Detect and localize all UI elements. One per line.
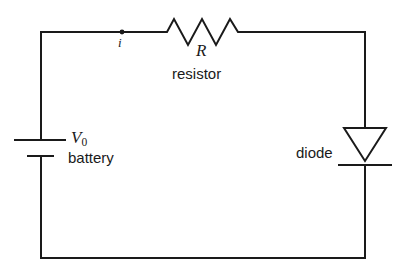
current-label: i [118, 36, 122, 49]
resistor-caption-label: resistor [172, 66, 221, 81]
diode-caption-label: diode [296, 145, 333, 160]
battery-caption-label: battery [68, 150, 114, 165]
battery-voltage-symbol-subscript: 0 [81, 136, 87, 149]
circuit-diagram-figure: i R resistor V0 battery diode [0, 0, 404, 274]
label-layer: i R resistor V0 battery diode [0, 0, 404, 274]
battery-voltage-symbol-label: V0 [71, 129, 87, 149]
resistance-symbol-label: R [196, 42, 206, 59]
battery-voltage-symbol-letter: V [71, 128, 81, 147]
